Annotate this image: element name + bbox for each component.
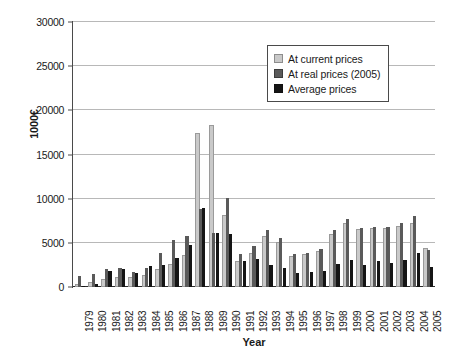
year-group — [153, 22, 166, 287]
y-tick-label: 15000 — [36, 149, 64, 161]
y-tick-label: 25000 — [36, 60, 64, 72]
bar — [229, 234, 232, 287]
bar — [377, 261, 380, 287]
x-tick-label: 1982 — [124, 311, 135, 332]
bar — [108, 271, 111, 287]
year-group — [194, 22, 207, 287]
year-group — [73, 22, 86, 287]
year-group — [140, 22, 153, 287]
bar — [256, 259, 259, 287]
x-tick-label: 1986 — [178, 311, 189, 332]
legend-item: At real prices (2005) — [274, 66, 380, 81]
year-group — [207, 22, 220, 287]
x-tick-label: 1984 — [151, 311, 162, 332]
bar — [296, 273, 299, 287]
year-group — [113, 22, 126, 287]
x-tick-label: 2002 — [392, 311, 403, 332]
year-group — [234, 22, 247, 287]
bar — [323, 271, 326, 287]
y-tick-label: 5000 — [42, 237, 64, 249]
bar — [390, 263, 393, 287]
x-tick-label: 1980 — [97, 311, 108, 332]
year-group — [395, 22, 408, 287]
x-tick-label: 1999 — [352, 311, 363, 332]
x-tick-label: 1979 — [84, 311, 95, 332]
x-tick-label: 1990 — [231, 311, 242, 332]
legend-swatch-icon — [274, 84, 283, 93]
x-tick-label: 1988 — [204, 311, 215, 332]
bar — [310, 272, 313, 287]
year-group — [167, 22, 180, 287]
y-tick-label: 10000 — [36, 193, 64, 205]
year-group — [220, 22, 233, 287]
bar — [162, 265, 165, 287]
year-group — [100, 22, 113, 287]
year-group — [408, 22, 421, 287]
bar — [95, 284, 98, 287]
x-tick-label: 2000 — [365, 311, 376, 332]
legend-label: Average prices — [288, 83, 356, 95]
bar — [82, 286, 85, 287]
bar — [243, 261, 246, 288]
year-group — [422, 22, 435, 287]
x-tick-label: 1989 — [218, 311, 229, 332]
bar — [202, 208, 205, 287]
bar — [149, 266, 152, 287]
bar — [122, 269, 125, 287]
x-tick-label: 1983 — [137, 311, 148, 332]
y-tick-label: 20000 — [36, 104, 64, 116]
legend-label: At current prices — [288, 53, 363, 65]
x-tick-label: 1997 — [325, 311, 336, 332]
x-tick-label: 1996 — [312, 311, 323, 332]
legend-label: At real prices (2005) — [288, 68, 380, 80]
x-tick-label: 1981 — [111, 311, 122, 332]
bar — [350, 260, 353, 287]
bar — [417, 253, 420, 287]
x-tick-label: 2003 — [405, 311, 416, 332]
x-tick-label: 2001 — [379, 311, 390, 332]
x-axis-title: Year — [73, 336, 435, 348]
x-tick-label: 2005 — [432, 311, 443, 332]
year-group — [86, 22, 99, 287]
chart-legend: At current pricesAt real prices (2005)Av… — [267, 45, 389, 102]
x-axis-tick-labels: 1979198019811982198319841985198619871988… — [73, 290, 435, 335]
legend-item: Average prices — [274, 81, 380, 96]
bar — [189, 245, 192, 287]
y-tick-label: 0 — [58, 281, 64, 293]
bar — [363, 265, 366, 287]
year-group — [180, 22, 193, 287]
bar — [216, 233, 219, 287]
x-tick-label: 1994 — [285, 311, 296, 332]
x-tick-label: 1995 — [298, 311, 309, 332]
x-tick-label: 2004 — [419, 311, 430, 332]
year-group — [127, 22, 140, 287]
bar — [135, 273, 138, 287]
x-tick-label: 1993 — [271, 311, 282, 332]
year-group — [247, 22, 260, 287]
x-tick-label: 1991 — [245, 311, 256, 332]
bar-chart: 1000€ 050001000015000200002500030000 197… — [0, 0, 456, 361]
x-tick-label: 1987 — [191, 311, 202, 332]
y-axis-tick-labels: 050001000015000200002500030000 — [0, 0, 70, 310]
bar — [430, 267, 433, 287]
legend-item: At current prices — [274, 51, 380, 66]
bar — [336, 264, 339, 287]
bar — [175, 258, 178, 287]
y-tick-label: 30000 — [36, 16, 64, 28]
legend-swatch-icon — [274, 54, 283, 63]
bar — [403, 260, 406, 287]
x-tick-label: 1992 — [258, 311, 269, 332]
x-tick-label: 1985 — [164, 311, 175, 332]
bar — [269, 265, 272, 287]
legend-swatch-icon — [274, 69, 283, 78]
bar — [283, 268, 286, 287]
x-tick-label: 1998 — [338, 311, 349, 332]
